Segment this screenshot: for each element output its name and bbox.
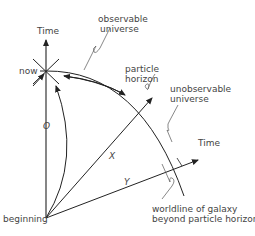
beginning-label: beginning <box>3 214 48 224</box>
observable-leader <box>84 28 110 70</box>
observable-label-2: universe <box>100 24 139 34</box>
worldline-x <box>46 98 152 218</box>
unobservable-label-1: unobservable <box>170 84 231 94</box>
time-label-right: Time <box>198 138 220 148</box>
time-label-top: Time <box>37 26 59 36</box>
y-axis-tick <box>177 158 182 166</box>
axis-o-label: O <box>43 121 50 131</box>
now-label: now <box>19 66 38 76</box>
worldline-label-2: beyond particle horizon <box>152 214 255 224</box>
worldline-galaxy-leader <box>162 164 174 199</box>
particle-horizon-label-2: horizon <box>125 74 158 84</box>
worldline-label-1: worldline of galaxy <box>152 204 237 214</box>
observable-label-1: observable <box>98 14 148 24</box>
axis-x-label: X <box>109 151 115 161</box>
unobservable-label-2: universe <box>170 94 209 104</box>
axis-y-label: Y <box>124 177 130 187</box>
unobservable-leader <box>167 105 178 142</box>
particle-horizon-label-1: particle <box>125 64 159 74</box>
